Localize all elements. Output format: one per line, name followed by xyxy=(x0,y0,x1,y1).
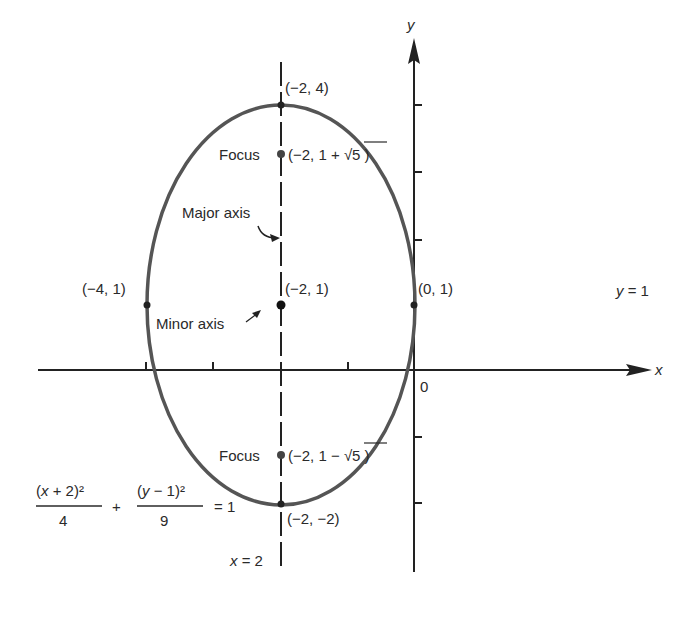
x-axis xyxy=(38,362,652,376)
close-paren: ) xyxy=(364,447,369,464)
equation-rhs: = 1 xyxy=(214,498,235,515)
equation-numerator-2: (y − 1)² xyxy=(137,482,185,499)
center-label: (−2, 1) xyxy=(285,280,329,297)
major-axis-annotation: Major axis xyxy=(182,204,250,221)
ellipse-diagram: y x 0 (−2, 4) Focus (−2, 1 + √5) Major a… xyxy=(0,0,696,624)
vertical-line-label: x = 2 xyxy=(229,552,263,569)
equation-numerator-1: (x + 2)² xyxy=(36,482,84,499)
equation-denominator-2: 9 xyxy=(160,512,168,529)
bottom-vertex-label: (−2, −2) xyxy=(287,510,340,527)
arrowhead-icon xyxy=(270,234,280,242)
sqrt-arg: 5 xyxy=(352,146,360,163)
left-vertex-point xyxy=(144,302,151,309)
sqrt-arg: 5 xyxy=(352,447,360,464)
close-paren: ) xyxy=(364,146,369,163)
ellipse-equation: (x + 2)² 4 + (y − 1)² 9 = 1 xyxy=(36,482,235,529)
center-point xyxy=(277,301,286,310)
origin-label: 0 xyxy=(420,378,428,395)
equation-plus: + xyxy=(112,498,121,515)
focus-top-prefix: (−2, 1 + xyxy=(288,146,344,163)
focus-top-coords: (−2, 1 + √5) xyxy=(288,146,369,163)
focus-bottom-prefix: (−2, 1 − xyxy=(288,447,344,464)
horizontal-line-label: y = 1 xyxy=(615,282,649,299)
minor-axis-annotation: Minor axis xyxy=(156,315,224,332)
focus-bottom-point xyxy=(277,451,285,459)
top-vertex-point xyxy=(278,102,285,109)
focus-top-point xyxy=(277,150,285,158)
right-vertex-label: (0, 1) xyxy=(418,280,453,297)
focus-bottom-annotation: Focus xyxy=(219,447,260,464)
focus-top-annotation: Focus xyxy=(219,146,260,163)
x-axis-label: x xyxy=(654,361,663,378)
bottom-vertex-point xyxy=(278,501,285,508)
top-vertex-label: (−2, 4) xyxy=(285,79,329,96)
equation-denominator-1: 4 xyxy=(59,512,67,529)
focus-bottom-coords: (−2, 1 − √5) xyxy=(288,447,369,464)
y-axis-label: y xyxy=(406,16,416,33)
left-vertex-label: (−4, 1) xyxy=(82,280,126,297)
right-vertex-point xyxy=(411,302,418,309)
